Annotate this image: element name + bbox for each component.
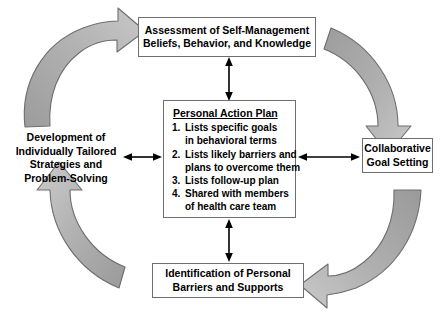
action-plan-item-4-text: Shared with members of health care team <box>185 187 289 213</box>
connector-plan-to-identification <box>225 219 233 262</box>
identification-line-2: Barriers and Supports <box>173 281 284 295</box>
arrow-top-left <box>24 8 145 127</box>
action-plan-item-1-number: 1. <box>172 121 185 134</box>
node-collaborative-goal-setting-box: Collaborative Goal Setting <box>362 138 433 173</box>
identification-line-1: Identification of Personal <box>165 267 290 281</box>
action-plan-item-1-line-1: Lists specific goals <box>185 121 277 134</box>
node-development-label: Development of Individually Tailored Str… <box>10 128 122 188</box>
connector-assessment-to-plan <box>225 57 233 101</box>
node-personal-action-plan-box: Personal Action Plan 1. Lists specific g… <box>163 100 296 218</box>
connector-development-to-plan <box>123 153 162 161</box>
action-plan-item-2-text: Lists likely barriers and plans to overc… <box>185 148 300 174</box>
development-line-4: Problem-Solving <box>24 172 107 186</box>
action-plan-item-4: 4. Shared with members of health care te… <box>172 187 289 213</box>
arrow-top-right <box>324 28 411 154</box>
diagram-canvas: Assessment of Self-Management Beliefs, B… <box>0 0 446 315</box>
action-plan-item-3-number: 3. <box>172 174 185 187</box>
development-line-3: Strategies and <box>30 158 102 172</box>
connector-plan-to-collaborative <box>298 153 360 161</box>
development-line-2: Individually Tailored <box>16 145 117 159</box>
action-plan-item-4-number: 4. <box>172 187 185 200</box>
node-identification-box: Identification of Personal Barriers and … <box>152 263 304 298</box>
action-plan-item-4-line-1: Shared with members <box>185 187 289 200</box>
action-plan-item-3-line-1: Lists follow-up plan <box>185 174 279 187</box>
assessment-line-1: Assessment of Self-Management <box>145 24 310 38</box>
assessment-line-2: Beliefs, Behavior, and Knowledge <box>143 37 311 51</box>
action-plan-item-3: 3. Lists follow-up plan <box>172 174 279 187</box>
collaborative-line-1: Collaborative <box>364 142 431 156</box>
action-plan-item-3-text: Lists follow-up plan <box>185 174 279 187</box>
action-plan-item-2: 2. Lists likely barriers and plans to ov… <box>172 148 300 174</box>
action-plan-item-1-text: Lists specific goals in behavioral terms <box>185 121 277 147</box>
action-plan-item-1-line-2: in behavioral terms <box>185 134 277 147</box>
action-plan-item-2-line-1: Lists likely barriers and <box>185 148 300 161</box>
action-plan-item-2-number: 2. <box>172 148 185 161</box>
collaborative-line-2: Goal Setting <box>367 156 429 170</box>
arrow-bottom-right <box>300 190 421 308</box>
action-plan-item-2-line-2: plans to overcome them <box>185 161 300 174</box>
action-plan-item-4-line-2: of health care team <box>185 200 289 213</box>
development-line-1: Development of <box>27 131 106 145</box>
action-plan-item-1: 1. Lists specific goals in behavioral te… <box>172 121 277 147</box>
action-plan-title: Personal Action Plan <box>172 107 278 120</box>
node-assessment-box: Assessment of Self-Management Beliefs, B… <box>138 17 316 57</box>
